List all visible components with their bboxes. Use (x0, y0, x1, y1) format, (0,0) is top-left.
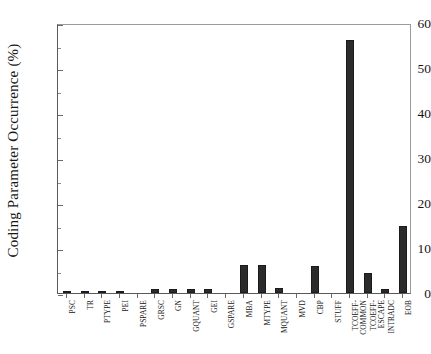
x-axis-tick (296, 294, 297, 298)
x-axis-tick-label: PSC (69, 300, 77, 313)
x-axis-tick (367, 294, 368, 298)
y-axis-tick-minor (58, 138, 61, 139)
x-axis-tick-label: GQUANT (193, 300, 201, 332)
x-axis-tick (314, 294, 315, 298)
x-axis-tick (402, 294, 403, 298)
y-axis-tick-minor (58, 93, 61, 94)
chart-figure: Coding Parameter Occurrence (%) 01020304… (0, 0, 431, 354)
bar (169, 289, 177, 293)
x-axis-tick (225, 294, 226, 298)
bar (240, 265, 248, 293)
x-axis-tick (66, 294, 67, 298)
y-axis-title-container: Coding Parameter Occurrence (%) (0, 0, 26, 300)
y-axis-tick-major (58, 250, 63, 251)
x-axis-tick-label: GSPARE (228, 300, 236, 328)
y-axis-tick-major (58, 25, 63, 26)
x-axis-tick-label: MVD (299, 300, 307, 318)
x-axis-tick-label: TR (87, 300, 95, 310)
x-axis-tick (137, 294, 138, 298)
y-axis-tick-minor (58, 273, 61, 274)
x-axis-tick (101, 294, 102, 298)
x-axis-tick-label: TCOEFF-ESCAPE (370, 300, 385, 352)
bar (81, 291, 89, 293)
y-axis-tick-major (58, 115, 63, 116)
x-axis-tick (119, 294, 120, 298)
x-axis-tick (190, 294, 191, 298)
bar (381, 289, 389, 294)
bar (346, 40, 354, 293)
x-axis-tick-label: PSPARE (140, 300, 148, 327)
x-axis-tick-label: CBP (317, 300, 325, 314)
bar (116, 291, 124, 293)
bar (204, 289, 212, 293)
y-axis-tick-major (58, 295, 63, 296)
x-axis-tick (84, 294, 85, 298)
y-axis-tick-minor (58, 183, 61, 184)
x-axis-tick-label: STUFF (335, 300, 343, 323)
x-axis-tick (207, 294, 208, 298)
bar (151, 289, 159, 293)
x-axis-tick-label: GEI (211, 300, 219, 313)
plot-area (57, 24, 411, 294)
x-axis-tick (172, 294, 173, 298)
bar (98, 291, 106, 293)
x-axis-tick (349, 294, 350, 298)
y-axis-tick-major (58, 160, 63, 161)
y-axis-tick-major (58, 205, 63, 206)
y-axis-tick-major (58, 70, 63, 71)
y-axis-tick-minor (58, 48, 61, 49)
x-axis-tick-label: TCOEFF-COMMON (352, 300, 367, 352)
x-axis-tick (154, 294, 155, 298)
y-axis-tick-minor (58, 228, 61, 229)
x-axis-tick-label: MBA (246, 300, 254, 317)
x-axis-tick (278, 294, 279, 298)
x-axis-tick (331, 294, 332, 298)
x-axis-tick-label: GRSC (158, 300, 166, 320)
bar (187, 289, 195, 293)
x-axis-tick-label: EOB (405, 300, 413, 315)
x-axis-tick-label: MQUANT (281, 300, 289, 333)
bar (364, 273, 372, 293)
y-axis-title: Coding Parameter Occurrence (%) (5, 43, 22, 257)
bar (63, 291, 71, 293)
x-axis-tick-label: PTYPE (104, 300, 112, 323)
x-axis-tick-label: MTYPE (264, 300, 272, 326)
bar (399, 226, 407, 294)
x-axis-tick-label: PEI (122, 300, 130, 311)
x-axis-tick (243, 294, 244, 298)
bar (258, 265, 266, 293)
x-axis-tick (384, 294, 385, 298)
x-axis-tick (261, 294, 262, 298)
x-axis-tick-label: INTRADC (388, 300, 396, 334)
bar (311, 266, 319, 293)
x-axis-tick-label: GN (175, 300, 183, 311)
bar (275, 288, 283, 293)
